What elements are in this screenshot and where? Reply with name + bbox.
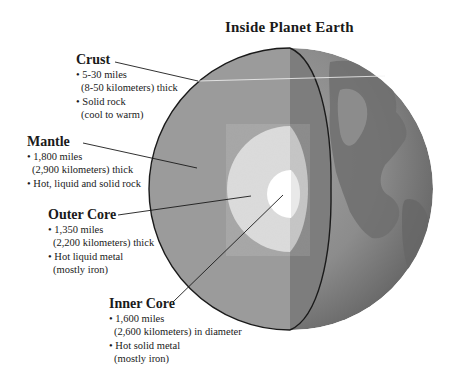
label-crust-line: (8-50 kilometers) thick — [76, 81, 178, 94]
label-mantle-line: • Hot, liquid and solid rock — [27, 177, 141, 190]
label-mantle-line: • 1,800 miles — [27, 150, 141, 163]
label-outer-core-line: • Hot liquid metal — [48, 250, 154, 263]
label-outer-core-line: (mostly iron) — [48, 263, 154, 276]
label-crust-line: (cool to warm) — [76, 108, 178, 121]
label-inner-core-line: (mostly iron) — [109, 352, 242, 365]
label-crust: Crust • 5-30 miles (8-50 kilometers) thi… — [76, 51, 178, 122]
label-inner-core-line: (2,600 kilometers) in diameter — [109, 325, 242, 338]
label-outer-core: Outer Core • 1,350 miles (2,200 kilomete… — [48, 206, 154, 277]
label-mantle-title: Mantle — [27, 133, 141, 150]
label-inner-core: Inner Core • 1,600 miles (2,600 kilomete… — [109, 295, 242, 366]
label-crust-line: • Solid rock — [76, 95, 178, 108]
label-mantle: Mantle • 1,800 miles (2,900 kilometers) … — [27, 133, 141, 190]
label-inner-core-line: • Hot solid metal — [109, 339, 242, 352]
label-outer-core-line: (2,200 kilometers) thick — [48, 236, 154, 249]
label-inner-core-line: • 1,600 miles — [109, 312, 242, 325]
label-inner-core-title: Inner Core — [109, 295, 242, 312]
label-outer-core-line: • 1,350 miles — [48, 223, 154, 236]
label-crust-title: Crust — [76, 51, 178, 68]
continent-shape — [402, 199, 428, 272]
label-outer-core-title: Outer Core — [48, 206, 154, 223]
label-mantle-line: (2,900 kilometers) thick — [27, 163, 141, 176]
label-crust-line: • 5-30 miles — [76, 68, 178, 81]
